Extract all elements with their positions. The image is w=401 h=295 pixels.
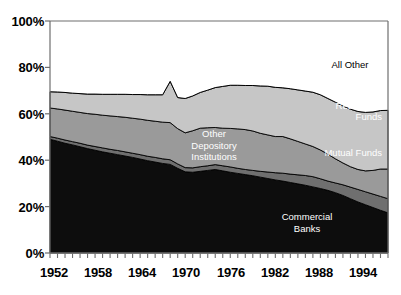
pension-retirement-funds-label: Pension & Retirement Funds <box>308 88 382 123</box>
commercial-banks-label: Commercial Banks <box>271 211 343 234</box>
y-tick-60: 60% <box>0 107 44 122</box>
x-tick-1952: 1952 <box>32 265 76 280</box>
y-tick-0: 0% <box>0 246 44 261</box>
x-tick-1958: 1958 <box>76 265 120 280</box>
x-tick-1982: 1982 <box>253 265 297 280</box>
other-depository-institutions-label: Other Depository Institutions <box>178 128 250 163</box>
pension-label-line2: Retirement <box>308 100 382 112</box>
y-tick-80: 80% <box>0 60 44 75</box>
x-tick-1988: 1988 <box>297 265 341 280</box>
chart-container: 100% 80% 60% 40% 20% 0% 1952 1958 1964 1… <box>0 0 401 295</box>
all-other-label-line1: All Other <box>320 59 380 71</box>
commercial-label-line2: Banks <box>271 223 343 235</box>
x-tick-1964: 1964 <box>120 265 164 280</box>
y-tick-20: 20% <box>0 200 44 215</box>
mutual-funds-label-line1: Mutual Funds <box>308 147 382 159</box>
pension-label-line3: Funds <box>308 111 382 123</box>
commercial-label-line1: Commercial <box>271 211 343 223</box>
x-tick-1994: 1994 <box>341 265 385 280</box>
x-tick-1970: 1970 <box>164 265 208 280</box>
mutual-funds-label: Mutual Funds <box>308 147 382 159</box>
pension-label-line1: Pension & <box>308 88 382 100</box>
other-dep-label-line1: Other <box>178 128 250 140</box>
y-tick-40: 40% <box>0 153 44 168</box>
y-tick-100: 100% <box>0 14 44 29</box>
all-other-label: All Other <box>320 59 380 71</box>
x-tick-1976: 1976 <box>209 265 253 280</box>
other-dep-label-line2: Depository <box>178 140 250 152</box>
other-dep-label-line3: Institutions <box>178 151 250 163</box>
